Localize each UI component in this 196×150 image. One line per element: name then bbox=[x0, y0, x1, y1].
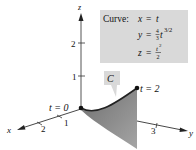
y-axis bbox=[137, 121, 182, 130]
equations-title: Curve: bbox=[103, 14, 129, 24]
x-axis-arrow-icon bbox=[17, 125, 26, 130]
eq-z-den: 2 bbox=[157, 54, 160, 60]
start-label: t = 0 bbox=[49, 102, 69, 113]
surface-under-curve bbox=[81, 88, 137, 149]
z-tick-label-2: 2 bbox=[71, 39, 76, 49]
z-axis-arrow-icon bbox=[79, 13, 84, 21]
z-tick-label-1: 1 bbox=[72, 72, 77, 82]
eq-y-coef-num: 4 bbox=[156, 28, 159, 34]
eq-y-equals: = bbox=[146, 30, 151, 40]
curve-label-pointer bbox=[111, 85, 117, 97]
eq-y-lhs: y bbox=[137, 30, 143, 40]
x-tick-label-1: 1 bbox=[64, 118, 69, 128]
y-tick-3 bbox=[156, 123, 157, 128]
eq-z-equals: = bbox=[146, 48, 151, 58]
eq-y-coef-den: 3 bbox=[156, 35, 159, 41]
eq-x-lhs: x bbox=[137, 14, 143, 24]
x-axis-label: x bbox=[6, 125, 11, 135]
end-point bbox=[135, 86, 140, 91]
x-tick-label-2: 2 bbox=[41, 124, 46, 134]
end-label: t = 2 bbox=[140, 83, 160, 94]
eq-x-rhs: t bbox=[156, 14, 159, 24]
y-tick-label-3: 3 bbox=[151, 126, 156, 136]
eq-z-lhs: z bbox=[137, 48, 142, 58]
space-curve-diagram: z x y 2 1 1 2 3 t = 0 t = 2 C Curve: x =… bbox=[0, 0, 196, 150]
eq-y-var: t bbox=[160, 30, 163, 40]
y-axis-arrow-icon bbox=[180, 128, 189, 133]
eq-x-equals: = bbox=[146, 14, 151, 24]
y-axis-label: y bbox=[188, 128, 193, 138]
z-axis-label: z bbox=[77, 3, 82, 12]
eq-y-exp: 3/2 bbox=[164, 26, 172, 33]
start-point bbox=[79, 106, 84, 111]
curve-name-label: C bbox=[107, 73, 114, 84]
